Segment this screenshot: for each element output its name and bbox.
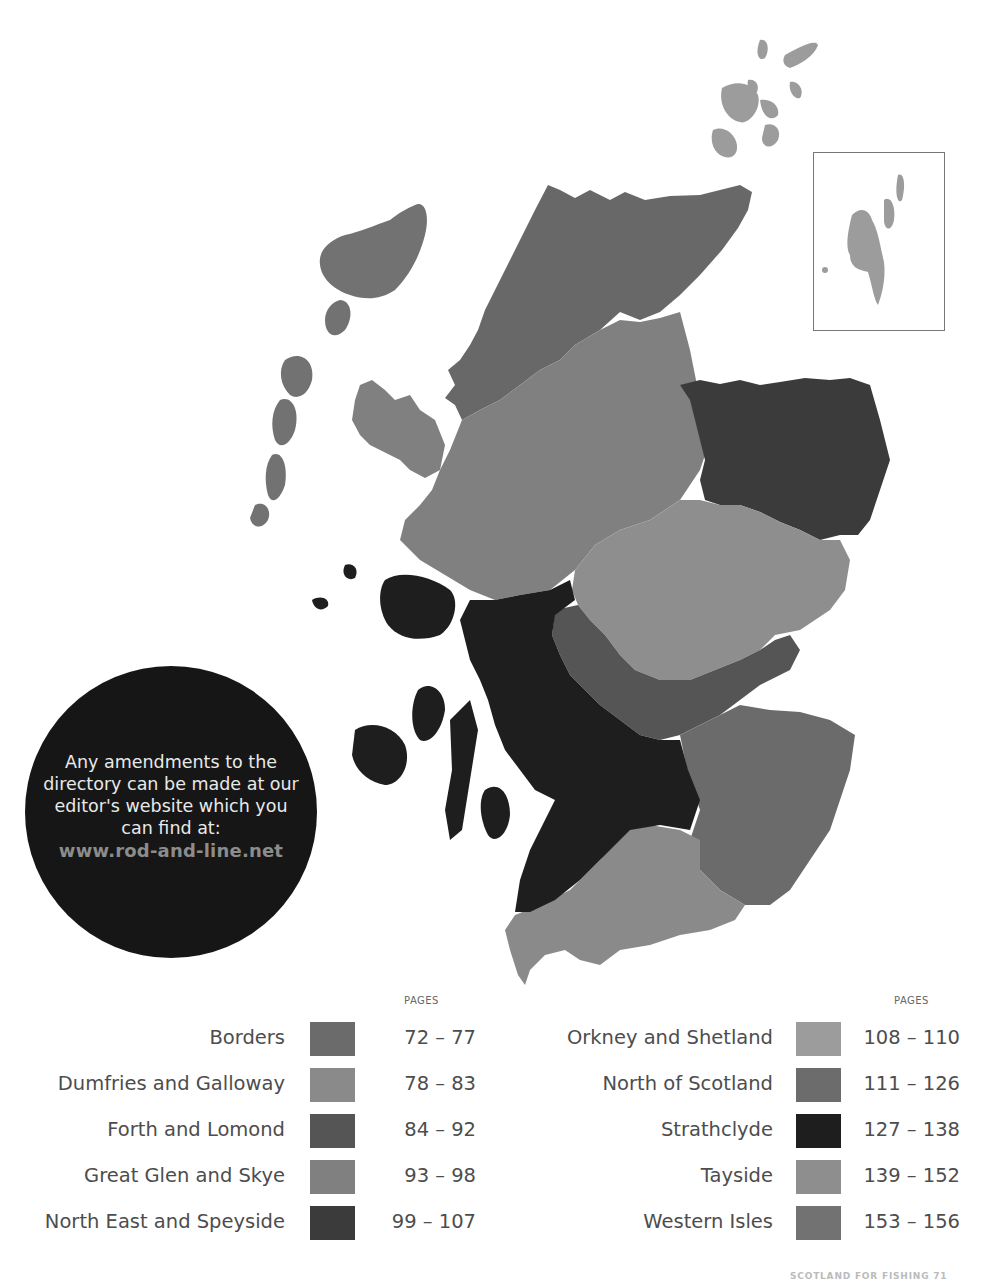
legend-label: Strathclyde (661, 1118, 773, 1141)
color-swatch (310, 1022, 355, 1056)
info-circle: Any amendments to the directory can be m… (25, 666, 317, 958)
pages-header: PAGES (894, 995, 929, 1006)
legend-row-forth-lomond: Forth and Lomond 84 – 92 (0, 1114, 500, 1148)
page-range: 139 – 152 (863, 1164, 960, 1187)
page-range: 72 – 77 (404, 1026, 476, 1049)
page-range: 108 – 110 (863, 1026, 960, 1049)
legend-row-western-isles: Western Isles 153 – 156 (520, 1206, 1000, 1240)
legend-label: Tayside (701, 1164, 773, 1187)
region-skye (352, 380, 445, 478)
legend-label: Orkney and Shetland (567, 1026, 773, 1049)
color-swatch (796, 1114, 841, 1148)
color-swatch (310, 1068, 355, 1102)
shetland-inset-frame (813, 152, 945, 331)
legend-label: Western Isles (643, 1210, 773, 1233)
legend-label: Borders (209, 1026, 285, 1049)
legend-row-great-glen-skye: Great Glen and Skye 93 – 98 (0, 1160, 500, 1194)
color-swatch (796, 1206, 841, 1240)
legend-row-dumfries-galloway: Dumfries and Galloway 78 – 83 (0, 1068, 500, 1102)
legend-label: Forth and Lomond (107, 1118, 285, 1141)
region-borders (680, 705, 855, 905)
region-western-isles (250, 204, 427, 527)
legend-label: Great Glen and Skye (84, 1164, 285, 1187)
page-range: 78 – 83 (404, 1072, 476, 1095)
color-swatch (796, 1068, 841, 1102)
legend-row-borders: Borders 72 – 77 (0, 1022, 500, 1056)
page-footer: SCOTLAND FOR FISHING 71 (790, 1271, 947, 1280)
color-swatch (796, 1160, 841, 1194)
website-link[interactable]: www.rod-and-line.net (59, 840, 283, 861)
color-swatch (310, 1206, 355, 1240)
page-range: 99 – 107 (392, 1210, 476, 1233)
page-range: 127 – 138 (863, 1118, 960, 1141)
legend-label: North of Scotland (602, 1072, 773, 1095)
legend-row-north-east-speyside: North East and Speyside 99 – 107 (0, 1206, 500, 1240)
page-range: 111 – 126 (863, 1072, 960, 1095)
pages-header: PAGES (404, 995, 439, 1006)
legend-row-tayside: Tayside 139 – 152 (520, 1160, 1000, 1194)
legend-row-orkney-shetland: Orkney and Shetland 108 – 110 (520, 1022, 1000, 1056)
legend-label: North East and Speyside (45, 1210, 285, 1233)
region-orkney (712, 40, 818, 158)
legend-row-strathclyde: Strathclyde 127 – 138 (520, 1114, 1000, 1148)
legend-row-north-of-scotland: North of Scotland 111 – 126 (520, 1068, 1000, 1102)
color-swatch (310, 1114, 355, 1148)
page-range: 153 – 156 (863, 1210, 960, 1233)
legend-label: Dumfries and Galloway (58, 1072, 285, 1095)
amendments-message: Any amendments to the directory can be m… (41, 751, 301, 839)
page-range: 84 – 92 (404, 1118, 476, 1141)
color-swatch (796, 1022, 841, 1056)
page-range: 93 – 98 (404, 1164, 476, 1187)
color-swatch (310, 1160, 355, 1194)
